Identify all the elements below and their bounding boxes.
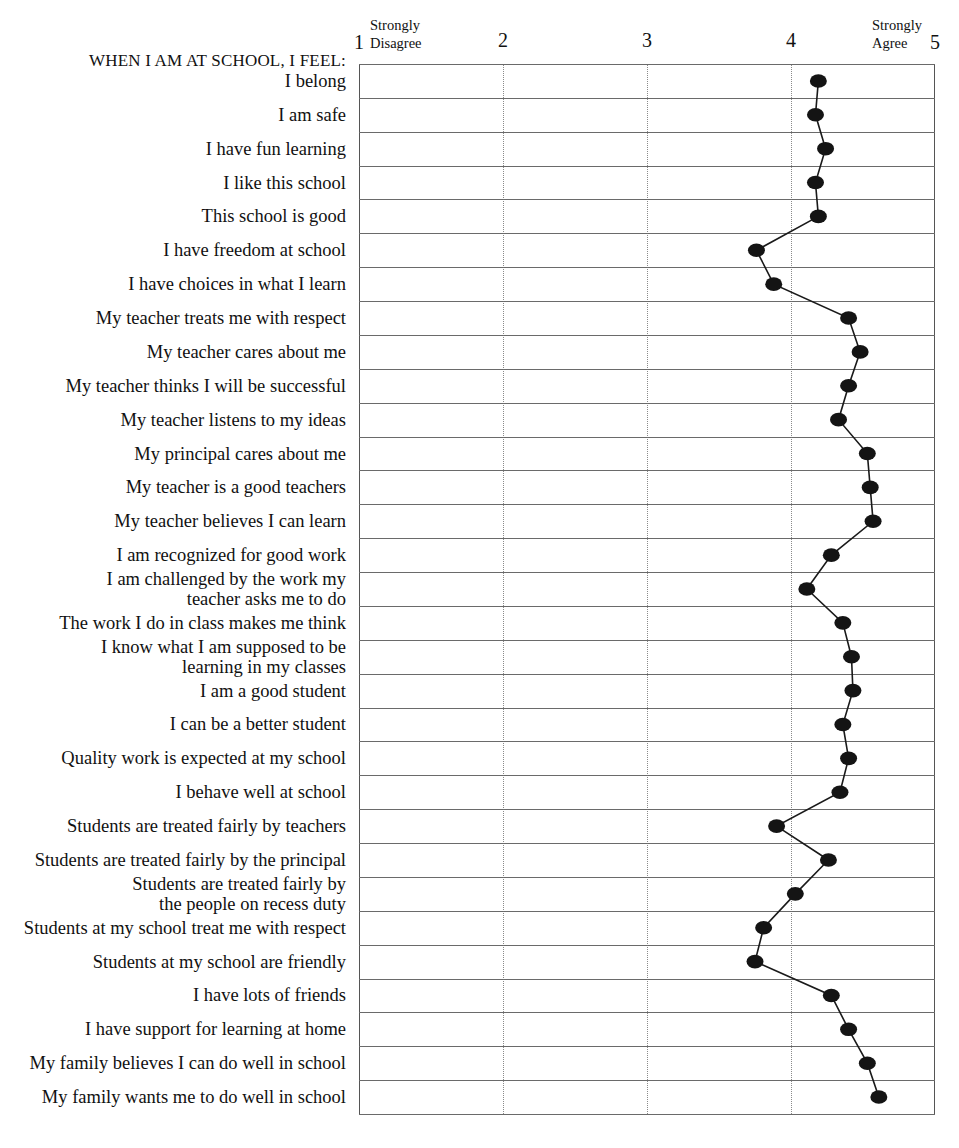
data-point[interactable] <box>768 819 785 833</box>
x-tick-1: 1 <box>354 32 364 52</box>
category-label: I have support for learning at home <box>85 1019 346 1039</box>
data-point[interactable] <box>834 718 851 732</box>
category-label-line: My teacher treats me with respect <box>96 308 346 328</box>
category-label: My family believes I can do well in scho… <box>30 1053 346 1073</box>
category-label: Quality work is expected at my school <box>61 748 346 768</box>
category-label-line: I am challenged by the work my <box>107 569 346 589</box>
category-label: My teacher believes I can learn <box>114 511 346 531</box>
data-point[interactable] <box>870 1090 887 1104</box>
category-label: I behave well at school <box>175 782 346 802</box>
category-label-line: Students are treated fairly by teachers <box>67 816 346 836</box>
category-label: I am safe <box>278 105 346 125</box>
data-point[interactable] <box>830 413 847 427</box>
x-tick-3: 3 <box>642 30 652 50</box>
category-label: I like this school <box>223 173 346 193</box>
category-label-line: learning in my classes <box>101 657 346 677</box>
category-label: My principal cares about me <box>134 444 346 464</box>
data-point[interactable] <box>820 853 837 867</box>
category-label-line: teacher asks me to do <box>107 589 346 609</box>
category-label-line: I have lots of friends <box>193 985 346 1005</box>
category-label-line: My family wants me to do well in school <box>42 1087 346 1107</box>
category-label: My family wants me to do well in school <box>42 1087 346 1107</box>
category-label: Students at my school treat me with resp… <box>24 918 346 938</box>
category-label: My teacher is a good teachers <box>126 477 346 497</box>
data-point[interactable] <box>787 887 804 901</box>
category-label: Students at my school are friendly <box>93 952 346 972</box>
category-label-line: My family believes I can do well in scho… <box>30 1053 346 1073</box>
data-point[interactable] <box>810 210 827 224</box>
data-point[interactable] <box>817 142 834 156</box>
category-label-line: My teacher cares about me <box>147 342 346 362</box>
category-label-line: I know what I am supposed to be <box>101 637 346 657</box>
data-point[interactable] <box>765 277 782 291</box>
data-series <box>359 64 935 1114</box>
data-point[interactable] <box>747 955 764 969</box>
category-label: I have fun learning <box>206 139 346 159</box>
data-point[interactable] <box>823 548 840 562</box>
category-label-line: The work I do in class makes me think <box>59 613 346 633</box>
data-point[interactable] <box>798 582 815 596</box>
data-point[interactable] <box>840 311 857 325</box>
category-label: I know what I am supposed to belearning … <box>101 637 346 677</box>
category-label-line: I am safe <box>278 105 346 125</box>
data-point[interactable] <box>823 989 840 1003</box>
category-label: This school is good <box>202 206 346 226</box>
category-label-line: My principal cares about me <box>134 444 346 464</box>
category-label-line: I have choices in what I learn <box>128 274 346 294</box>
category-label-line: My teacher is a good teachers <box>126 477 346 497</box>
category-label-line: Students are treated fairly by <box>132 874 346 894</box>
category-label-line: the people on recess duty <box>132 894 346 914</box>
data-point[interactable] <box>859 1056 876 1070</box>
data-point[interactable] <box>831 785 848 799</box>
category-label: My teacher thinks I will be successful <box>65 376 346 396</box>
row-gridline <box>359 1114 935 1115</box>
data-point[interactable] <box>862 481 879 495</box>
anchor-high-line1: Strongly <box>872 17 922 33</box>
category-label-line: I am a good student <box>200 681 346 701</box>
anchor-low-line2: Disagree <box>370 36 422 51</box>
data-point[interactable] <box>748 243 765 257</box>
scale-anchor-strongly-agree: Strongly Agree <box>872 18 922 50</box>
category-label-line: My teacher listens to my ideas <box>120 410 346 430</box>
category-label: My teacher cares about me <box>147 342 346 362</box>
category-label-line: Students at my school treat me with resp… <box>24 918 346 938</box>
category-label: Students are treated fairly by the princ… <box>35 850 346 870</box>
data-point[interactable] <box>859 447 876 461</box>
category-label-line: I like this school <box>223 173 346 193</box>
data-point[interactable] <box>810 74 827 88</box>
category-label: My teacher listens to my ideas <box>120 410 346 430</box>
data-point[interactable] <box>865 514 882 528</box>
data-point[interactable] <box>807 176 824 190</box>
category-label: Students are treated fairly by teachers <box>67 816 346 836</box>
category-label-line: I have support for learning at home <box>85 1019 346 1039</box>
category-label: I have lots of friends <box>193 985 346 1005</box>
data-point[interactable] <box>755 921 772 935</box>
category-label-column: WHEN I AM AT SCHOOL, I FEEL:I belongI am… <box>0 64 352 1114</box>
category-label: I can be a better student <box>170 714 346 734</box>
plot-area <box>359 64 935 1114</box>
category-label-line: My teacher thinks I will be successful <box>65 376 346 396</box>
data-point[interactable] <box>843 650 860 664</box>
data-point[interactable] <box>840 752 857 766</box>
category-label-line: I belong <box>89 71 346 91</box>
category-label-line: Students at my school are friendly <box>93 952 346 972</box>
scale-anchor-strongly-disagree: Strongly Disagree <box>370 18 422 50</box>
anchor-low-line1: Strongly <box>370 17 420 33</box>
category-label-line: I behave well at school <box>175 782 346 802</box>
category-label-line: I have freedom at school <box>163 240 346 260</box>
category-label: I have choices in what I learn <box>128 274 346 294</box>
category-label: Students are treated fairly bythe people… <box>132 874 346 914</box>
category-label-line: Quality work is expected at my school <box>61 748 346 768</box>
data-point[interactable] <box>844 684 861 698</box>
category-label-line: I have fun learning <box>206 139 346 159</box>
anchor-high-line2: Agree <box>872 36 922 51</box>
data-point[interactable] <box>840 1023 857 1037</box>
category-label-line: I can be a better student <box>170 714 346 734</box>
data-point[interactable] <box>852 345 869 359</box>
category-label-line: My teacher believes I can learn <box>114 511 346 531</box>
category-label: WHEN I AM AT SCHOOL, I FEEL:I belong <box>89 51 346 91</box>
section-heading: WHEN I AM AT SCHOOL, I FEEL: <box>89 51 346 71</box>
data-point[interactable] <box>807 108 824 122</box>
data-point[interactable] <box>840 379 857 393</box>
data-point[interactable] <box>834 616 851 630</box>
